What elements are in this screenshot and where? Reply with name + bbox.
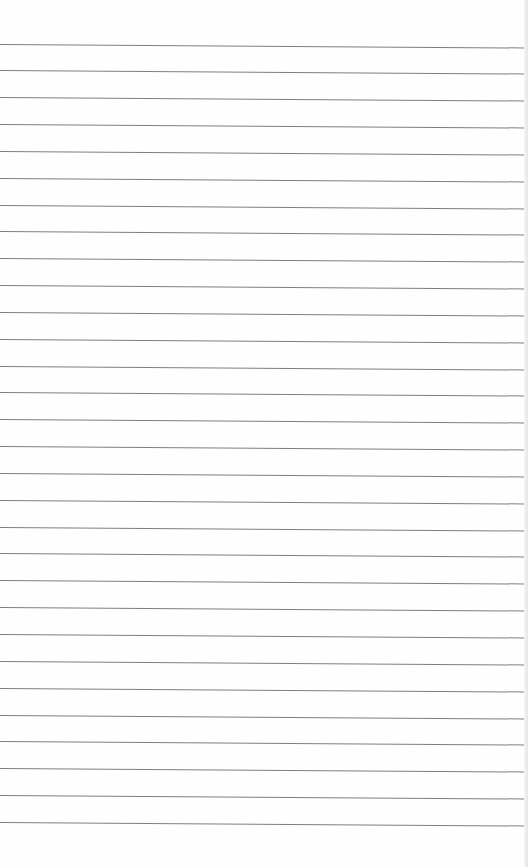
ruled-line: [0, 178, 524, 183]
lined-paper-sheet: [0, 0, 528, 867]
ruled-line: [0, 634, 524, 639]
ruled-line: [0, 741, 524, 746]
ruled-line: [0, 661, 524, 666]
ruled-line: [0, 580, 524, 585]
ruled-line: [0, 205, 524, 210]
ruled-line: [0, 822, 524, 827]
ruled-line: [0, 473, 524, 478]
ruled-line: [0, 527, 524, 532]
ruled-line: [0, 44, 524, 49]
ruled-line: [0, 419, 524, 424]
ruled-line: [0, 446, 524, 451]
ruled-line: [0, 124, 524, 129]
ruled-line: [0, 312, 524, 317]
ruled-line: [0, 795, 524, 800]
ruled-line: [0, 553, 524, 558]
ruled-line: [0, 607, 524, 612]
paper-right-edge: [524, 0, 528, 867]
ruled-line: [0, 258, 524, 263]
ruled-line: [0, 70, 524, 75]
ruled-line: [0, 366, 524, 371]
ruled-line: [0, 715, 524, 720]
ruled-line: [0, 97, 524, 102]
ruled-line: [0, 500, 524, 505]
ruled-line: [0, 285, 524, 290]
ruled-line: [0, 392, 524, 397]
ruled-line: [0, 231, 524, 236]
ruled-line: [0, 688, 524, 693]
ruled-line: [0, 151, 524, 156]
ruled-line: [0, 768, 524, 773]
ruled-line: [0, 339, 524, 344]
